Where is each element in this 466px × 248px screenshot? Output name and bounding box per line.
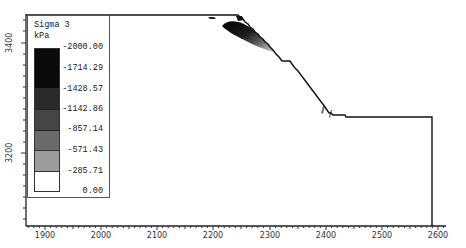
x-tick-label-2600: 2600 — [428, 231, 448, 240]
x-tick-label-2200: 2200 — [203, 231, 223, 240]
legend-swatch-1 — [34, 48, 60, 88]
x-tick-label-2100: 2100 — [147, 231, 167, 240]
legend-level-4: -1142.86 — [62, 104, 103, 114]
x-tick-label-2500: 2500 — [372, 231, 392, 240]
legend-unit: kPa — [34, 31, 70, 42]
legend-level-7: -285.71 — [67, 166, 103, 176]
legend-swatch-3 — [34, 109, 60, 130]
x-tick-label-2000: 2000 — [91, 231, 111, 240]
x-tick-label-2400: 2400 — [316, 231, 336, 240]
y-tick-label-3400: 3400 — [5, 33, 14, 53]
legend-variable: Sigma 3 — [34, 20, 70, 31]
color-legend: Sigma 3 kPa -2000.00 -1714.29 -1428.57 -… — [27, 15, 110, 198]
x-tick-label-2300: 2300 — [260, 231, 280, 240]
stress-contour-region — [208, 16, 332, 118]
legend-level-8: 0.00 — [83, 186, 103, 196]
legend-level-5: -857.14 — [67, 124, 103, 134]
legend-level-2: -1714.29 — [62, 63, 103, 73]
legend-swatch-4 — [34, 130, 60, 150]
y-tick-label-3200: 3200 — [5, 143, 14, 163]
legend-level-3: -1428.57 — [62, 84, 103, 94]
legend-level-1: -2000.00 — [62, 42, 103, 52]
legend-title: Sigma 3 kPa — [34, 20, 70, 42]
legend-swatch-2 — [34, 88, 60, 109]
legend-level-6: -571.43 — [67, 145, 103, 155]
x-tick-label-1900: 1900 — [35, 231, 55, 240]
legend-swatch-6 — [34, 171, 60, 192]
y-axis-ticks — [21, 20, 26, 219]
legend-swatch-5 — [34, 150, 60, 171]
